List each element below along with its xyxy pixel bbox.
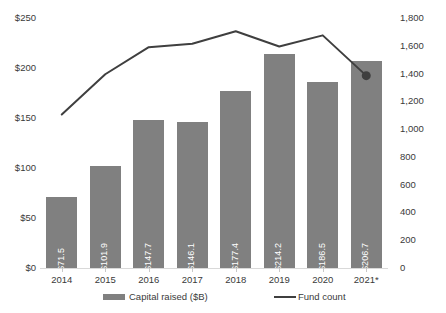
- x-axis-label-2019: 2019: [254, 275, 304, 285]
- x-axis-label-2018: 2018: [211, 275, 261, 285]
- legend-item-fund-count[interactable]: Fund count: [274, 291, 346, 302]
- x-axis-tick: [62, 268, 63, 272]
- x-axis-tick: [192, 268, 193, 272]
- bar-value-label: $146.1: [187, 243, 196, 271]
- y-axis-left-tick: $200: [0, 63, 36, 73]
- x-axis-label-2014: 2014: [37, 275, 87, 285]
- y-axis-right-tick: 400: [400, 207, 440, 217]
- x-axis-tick: [366, 268, 367, 272]
- y-axis-left-tick: $150: [0, 113, 36, 123]
- legend-line-swatch-icon: [274, 296, 296, 298]
- x-axis-tick: [236, 268, 237, 272]
- y-axis-right-tick: 1,000: [400, 124, 440, 134]
- y-axis-right-tick: 1,600: [400, 41, 440, 51]
- x-axis-tick: [149, 268, 150, 272]
- x-axis-label-2016: 2016: [124, 275, 174, 285]
- bar-2018[interactable]: [220, 91, 251, 268]
- x-axis-label-2021: 2021*: [341, 275, 391, 285]
- y-axis-left-tick: $250: [0, 13, 36, 23]
- y-axis-right-tick: 1,200: [400, 96, 440, 106]
- bar-value-label: $101.9: [100, 243, 109, 271]
- bar-value-label: $206.7: [361, 243, 370, 271]
- x-axis-tick: [279, 268, 280, 272]
- legend-label-capital-raised: Capital raised ($B): [129, 291, 208, 302]
- legend-item-capital-raised[interactable]: Capital raised ($B): [103, 291, 208, 302]
- legend-label-fund-count: Fund count: [298, 291, 346, 302]
- bar-value-label: $214.2: [274, 243, 283, 271]
- legend-bar-swatch-icon: [103, 294, 125, 300]
- y-axis-left-tick: $50: [0, 213, 36, 223]
- x-axis-label-2020: 2020: [298, 275, 348, 285]
- y-axis-right-tick: 1,400: [400, 69, 440, 79]
- y-axis-left-tick: $0: [0, 263, 36, 273]
- bar-value-label: $177.4: [231, 243, 240, 271]
- y-axis-right-tick: 800: [400, 152, 440, 162]
- x-axis-tick: [323, 268, 324, 272]
- y-axis-right-tick: 0: [400, 263, 440, 273]
- chart-container: $0$50$100$150$200$250 02004006008001,000…: [0, 0, 446, 313]
- chart-legend: Capital raised ($B) Fund count: [0, 289, 446, 307]
- x-axis-label-2017: 2017: [167, 275, 217, 285]
- bar-value-label: $147.7: [144, 243, 153, 271]
- y-axis-right-tick: 1,800: [400, 13, 440, 23]
- y-axis-left-tick: $100: [0, 163, 36, 173]
- bar-2020[interactable]: [307, 82, 338, 269]
- bar-2019[interactable]: [264, 54, 295, 268]
- bar-value-label: $186.5: [318, 243, 327, 271]
- plot-area: $71.5$101.9$147.7$146.1$177.4$214.2$186.…: [40, 18, 388, 268]
- y-axis-right-tick: 200: [400, 235, 440, 245]
- y-axis-right-tick: 600: [400, 180, 440, 190]
- x-axis-tick: [105, 268, 106, 272]
- x-axis-label-2015: 2015: [80, 275, 130, 285]
- x-axis-baseline: [40, 268, 388, 269]
- bar-2021[interactable]: [351, 61, 382, 268]
